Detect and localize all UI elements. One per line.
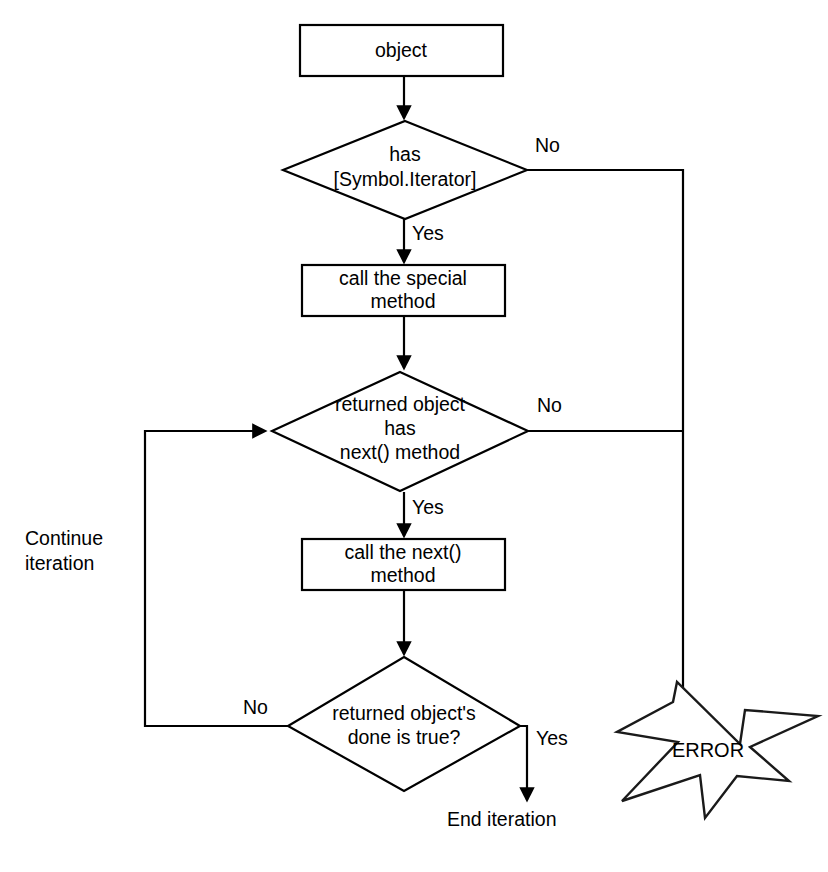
edge-label-done-yes: Yes: [536, 727, 568, 749]
edge-label-next-method-yes: Yes: [412, 496, 444, 518]
edge-symbol-iterator-no-to-error: [527, 170, 683, 718]
edge-done-no-continue-iteration-loop: [145, 431, 288, 726]
flowchart-canvas: object has [Symbol.Iterator] call the sp…: [0, 0, 828, 872]
label-continue-iteration-line1: Continue: [25, 527, 103, 549]
label-end-iteration: End iteration: [447, 808, 557, 830]
node-process-next-method-line2: method: [370, 564, 435, 586]
edge-label-next-method-no: No: [537, 394, 562, 416]
node-decision-symbol-iterator-line1: has: [389, 143, 421, 165]
label-continue-iteration-line2: iteration: [25, 552, 94, 574]
node-decision-next-method-line3: next() method: [340, 441, 460, 463]
node-decision-next-method-line1: returned object: [335, 393, 466, 415]
node-decision-next-method-line2: has: [384, 417, 416, 439]
node-decision-done-true-line2: done is true?: [348, 726, 461, 748]
edge-label-done-no: No: [243, 696, 268, 718]
node-process-special-method-line2: method: [370, 290, 435, 312]
node-decision-done-true-line1: returned object's: [332, 702, 476, 724]
edge-label-symbol-iterator-no: No: [535, 134, 560, 156]
node-error-burst-label: ERROR: [672, 739, 744, 761]
node-decision-symbol-iterator-line2: [Symbol.Iterator]: [333, 168, 476, 190]
edge-done-yes-to-end-iteration: [520, 726, 527, 800]
flowchart-svg: object has [Symbol.Iterator] call the sp…: [0, 0, 828, 872]
node-process-next-method-line1: call the next(): [344, 541, 461, 563]
edge-label-symbol-iterator-yes: Yes: [412, 222, 444, 244]
node-start-box-label: object: [375, 39, 428, 61]
node-process-special-method-line1: call the special: [339, 267, 467, 289]
